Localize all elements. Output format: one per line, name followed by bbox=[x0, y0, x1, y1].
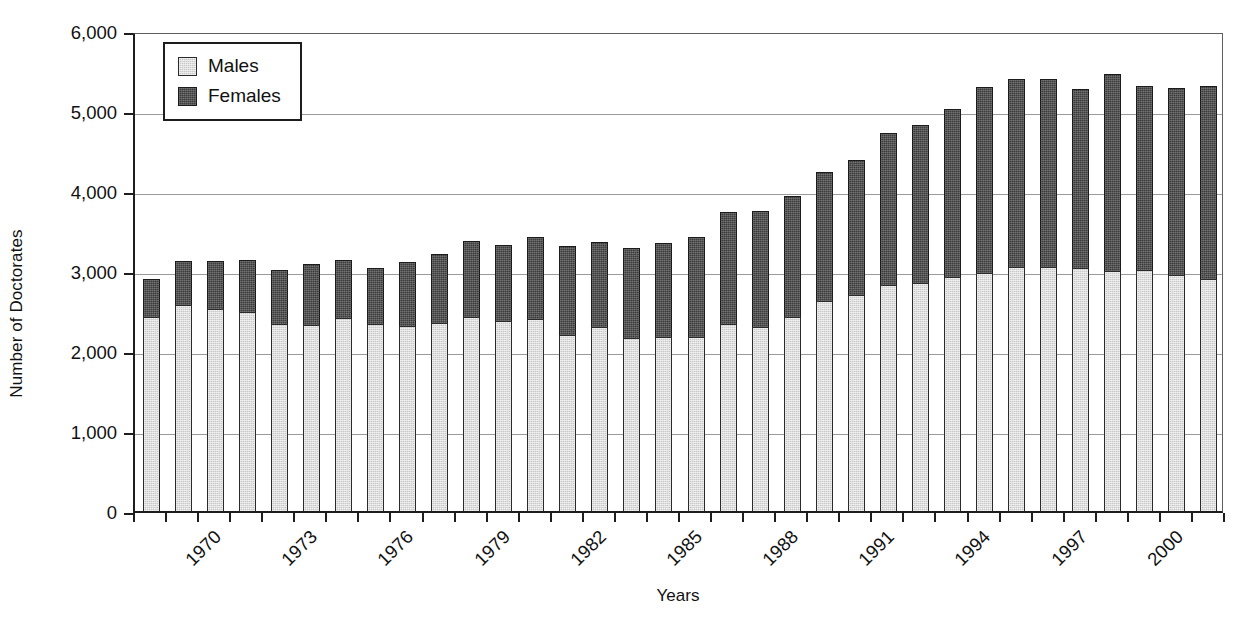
x-axis-tick bbox=[678, 513, 680, 522]
bar-segment-females bbox=[1136, 86, 1153, 270]
x-axis-tick bbox=[389, 513, 391, 522]
bar-group bbox=[591, 242, 608, 511]
bar-segment-males bbox=[848, 295, 865, 511]
bar-group bbox=[527, 237, 544, 511]
x-axis-tick bbox=[1095, 513, 1097, 522]
bar-segment-males bbox=[559, 335, 576, 511]
bar-segment-females bbox=[463, 241, 480, 317]
x-axis-tick bbox=[934, 513, 936, 522]
x-axis-tick bbox=[197, 513, 199, 522]
y-axis-title: Number of Doctorates bbox=[0, 0, 34, 627]
bar-group bbox=[335, 260, 352, 511]
x-axis-tick-label: 1979 bbox=[470, 526, 515, 571]
x-axis-tick-label: 1976 bbox=[373, 526, 418, 571]
y-axis-tick-label: 0 bbox=[107, 502, 117, 524]
bar-segment-males bbox=[463, 317, 480, 511]
bar-segment-females bbox=[688, 237, 705, 338]
bar-segment-males bbox=[912, 283, 929, 511]
bar-segment-females bbox=[207, 261, 224, 309]
bar-group bbox=[880, 133, 897, 511]
x-axis-tick bbox=[133, 513, 135, 522]
bar-segment-males bbox=[431, 323, 448, 511]
bar-segment-females bbox=[816, 172, 833, 302]
bar-group bbox=[559, 246, 576, 511]
bar-segment-males bbox=[207, 309, 224, 511]
x-axis-tick bbox=[293, 513, 295, 522]
bar-segment-females bbox=[1200, 86, 1217, 279]
x-axis-tick bbox=[518, 513, 520, 522]
x-axis-tick bbox=[614, 513, 616, 522]
x-axis-tick bbox=[838, 513, 840, 522]
x-axis-title: Years bbox=[133, 586, 1223, 606]
bar-group bbox=[175, 261, 192, 511]
bar-group bbox=[848, 160, 865, 511]
y-axis-tick bbox=[124, 193, 133, 195]
bar-segment-females bbox=[976, 87, 993, 273]
doctorates-stacked-bar-chart: Number of Doctorates 6,0005,0004,0003,00… bbox=[0, 0, 1238, 627]
y-axis-tick bbox=[124, 513, 133, 515]
bar-segment-females bbox=[784, 196, 801, 317]
bar-segment-females bbox=[431, 254, 448, 323]
bar-group bbox=[239, 260, 256, 511]
x-axis-tick bbox=[1159, 513, 1161, 522]
bar-segment-females bbox=[175, 261, 192, 305]
x-axis-tick bbox=[710, 513, 712, 522]
bar-segment-females bbox=[880, 133, 897, 286]
x-axis-tick bbox=[646, 513, 648, 522]
bar-segment-females bbox=[752, 211, 769, 327]
bar-segment-females bbox=[1168, 88, 1185, 275]
bar-segment-females bbox=[1008, 79, 1025, 267]
bar-segment-females bbox=[143, 279, 160, 317]
x-axis-tick-label: 1985 bbox=[662, 526, 707, 571]
x-axis-tick bbox=[902, 513, 904, 522]
x-axis-tick bbox=[357, 513, 359, 522]
y-axis-tick-label: 2,000 bbox=[71, 342, 117, 364]
bar-segment-females bbox=[1040, 79, 1057, 267]
y-axis-tick bbox=[124, 113, 133, 115]
bar-segment-males bbox=[623, 338, 640, 511]
x-axis-tick bbox=[165, 513, 167, 522]
bar-group bbox=[271, 270, 288, 511]
x-axis-tick bbox=[422, 513, 424, 522]
bar-group bbox=[944, 109, 961, 511]
bar-segment-males bbox=[1072, 268, 1089, 511]
dark-gray-swatch-icon bbox=[178, 87, 197, 106]
y-axis-tick bbox=[124, 353, 133, 355]
bar-group bbox=[1040, 79, 1057, 511]
x-axis-tick bbox=[1223, 513, 1225, 522]
bar-segment-males bbox=[527, 319, 544, 511]
bar-segment-females bbox=[1072, 89, 1089, 267]
bar-segment-males bbox=[816, 301, 833, 511]
bar-group bbox=[655, 243, 672, 511]
x-axis-tick bbox=[1191, 513, 1193, 522]
legend-label-females: Females bbox=[208, 85, 281, 107]
bar-segment-females bbox=[559, 246, 576, 335]
legend-item-females: Females bbox=[178, 81, 281, 111]
bar-group bbox=[303, 264, 320, 511]
bar-segment-females bbox=[303, 264, 320, 325]
x-axis-tick-label: 1991 bbox=[854, 526, 899, 571]
bar-group bbox=[431, 254, 448, 511]
bar-group bbox=[1200, 86, 1217, 511]
bar-group bbox=[207, 261, 224, 511]
bar-group bbox=[752, 211, 769, 511]
bar-group bbox=[399, 262, 416, 511]
bar-segment-females bbox=[239, 260, 256, 312]
x-axis-tick bbox=[1127, 513, 1129, 522]
x-axis-tick-label: 1970 bbox=[181, 526, 226, 571]
bar-segment-males bbox=[143, 317, 160, 511]
x-axis-tick bbox=[774, 513, 776, 522]
y-axis-tick bbox=[124, 273, 133, 275]
bar-segment-males bbox=[976, 273, 993, 511]
bar-segment-males bbox=[175, 305, 192, 511]
bar-segment-females bbox=[335, 260, 352, 318]
bar-segment-males bbox=[591, 327, 608, 511]
bar-segment-males bbox=[303, 325, 320, 511]
bar-group bbox=[976, 87, 993, 511]
bar-group bbox=[912, 125, 929, 511]
bar-group bbox=[1136, 86, 1153, 511]
bar-segment-males bbox=[1104, 271, 1121, 511]
x-axis-tick bbox=[742, 513, 744, 522]
bar-segment-males bbox=[271, 324, 288, 511]
x-axis-tick-label: 1988 bbox=[758, 526, 803, 571]
